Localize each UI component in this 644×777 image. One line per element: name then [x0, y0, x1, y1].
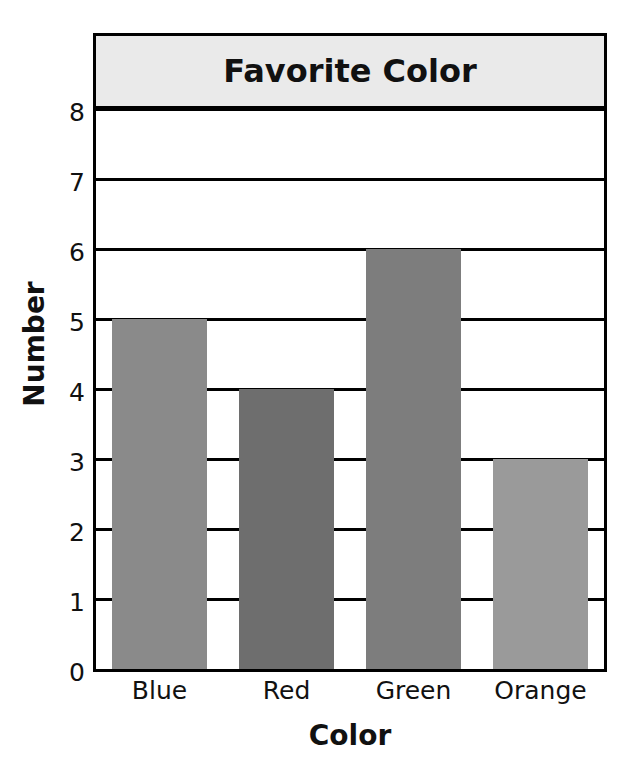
x-axis-title: Color — [93, 722, 607, 750]
y-tick-mark — [96, 108, 107, 111]
y-tick-mark — [96, 458, 107, 461]
y-tick-label: 1 — [55, 590, 85, 615]
y-tick-label: 7 — [55, 170, 85, 195]
chart-title-box: Favorite Color — [93, 33, 607, 109]
bar-orange — [493, 459, 588, 669]
y-tick-label: 5 — [55, 310, 85, 335]
bar-red — [239, 389, 334, 669]
y-tick-mark — [96, 388, 107, 391]
y-tick-mark — [96, 598, 107, 601]
y-tick-mark — [96, 248, 107, 251]
y-tick-label: 3 — [55, 450, 85, 475]
plot-area — [93, 109, 607, 672]
y-tick-label: 4 — [55, 380, 85, 405]
y-axis-tick-labels: 012345678 — [40, 109, 85, 672]
gridline — [96, 248, 604, 251]
x-tick-label-orange: Orange — [477, 678, 604, 703]
x-tick-label-green: Green — [350, 678, 477, 703]
bar-blue — [112, 319, 207, 669]
y-tick-mark — [96, 528, 107, 531]
bar-chart: Favorite Color Number 012345678 BlueRedG… — [0, 0, 644, 777]
y-tick-mark — [96, 178, 107, 181]
x-axis-tick-labels: BlueRedGreenOrange — [93, 678, 607, 718]
y-tick-mark — [96, 318, 107, 321]
chart-title: Favorite Color — [223, 55, 477, 87]
gridline — [96, 178, 604, 181]
y-tick-label: 0 — [55, 660, 85, 685]
x-tick-label-blue: Blue — [96, 678, 223, 703]
y-tick-label: 8 — [55, 100, 85, 125]
y-tick-label: 2 — [55, 520, 85, 545]
y-tick-label: 6 — [55, 240, 85, 265]
gridline — [96, 108, 604, 111]
bar-green — [366, 249, 461, 669]
x-tick-label-red: Red — [223, 678, 350, 703]
